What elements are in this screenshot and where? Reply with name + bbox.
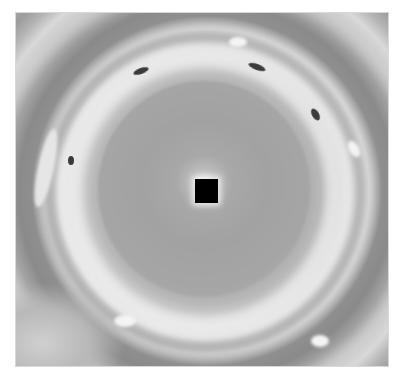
planet-vortex-photo	[15, 12, 389, 367]
white-oval	[114, 315, 136, 327]
corner-cloud-swirl	[15, 283, 126, 367]
center-mask-square	[195, 179, 218, 203]
dark-spot	[68, 156, 74, 165]
white-oval	[311, 335, 329, 347]
white-oval	[229, 37, 247, 47]
